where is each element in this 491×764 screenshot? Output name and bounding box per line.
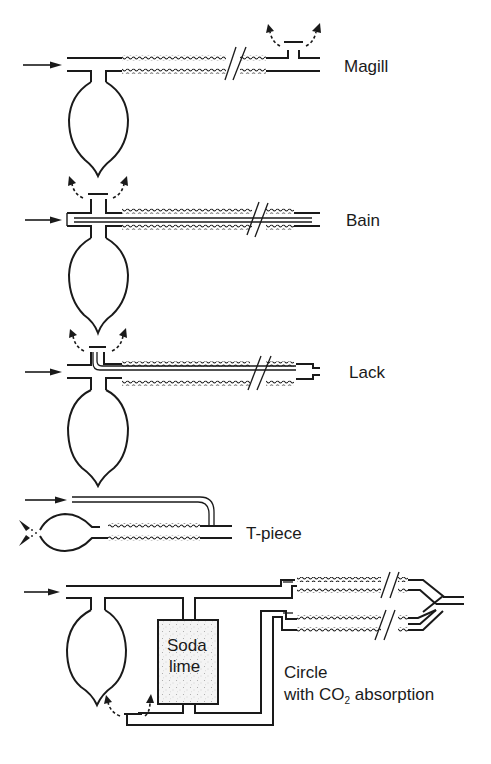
lack-system: Lack <box>25 328 385 486</box>
reservoir-bag <box>68 390 128 486</box>
label-circle-line2: with CO2 absorption <box>283 685 434 706</box>
break-mark-icon <box>381 572 399 598</box>
soda-lime-label-line1: Soda <box>167 636 207 655</box>
fresh-gas-arrow-icon <box>25 369 62 376</box>
label-magill: Magill <box>344 57 388 76</box>
breathing-systems-diagram: Magill Bai <box>0 0 491 764</box>
tpiece-system: T-piece <box>19 497 302 552</box>
label-bain: Bain <box>346 211 380 230</box>
fresh-gas-arrow-icon <box>24 589 60 596</box>
circle-system: Soda lime Circle with CO2 absorption <box>24 572 464 725</box>
exhaust-arrows-icon <box>19 520 37 546</box>
label-tpiece: T-piece <box>246 524 302 543</box>
corrugated-hose <box>122 56 226 61</box>
reservoir-bag <box>67 610 126 705</box>
label-lack: Lack <box>349 363 385 382</box>
fresh-gas-arrow-icon <box>23 62 62 69</box>
fresh-gas-arrow-icon <box>25 217 62 224</box>
break-mark-icon <box>247 202 268 237</box>
label-circle-line1: Circle <box>284 663 327 682</box>
magill-system: Magill <box>23 23 388 176</box>
fresh-gas-arrow-icon <box>25 497 67 504</box>
bain-system: Bain <box>25 176 380 333</box>
break-mark-icon <box>225 47 246 80</box>
reservoir-bag <box>69 82 128 176</box>
soda-lime-label-line2: lime <box>169 657 200 676</box>
break-mark-icon <box>375 610 395 640</box>
reservoir-bag <box>69 238 128 333</box>
